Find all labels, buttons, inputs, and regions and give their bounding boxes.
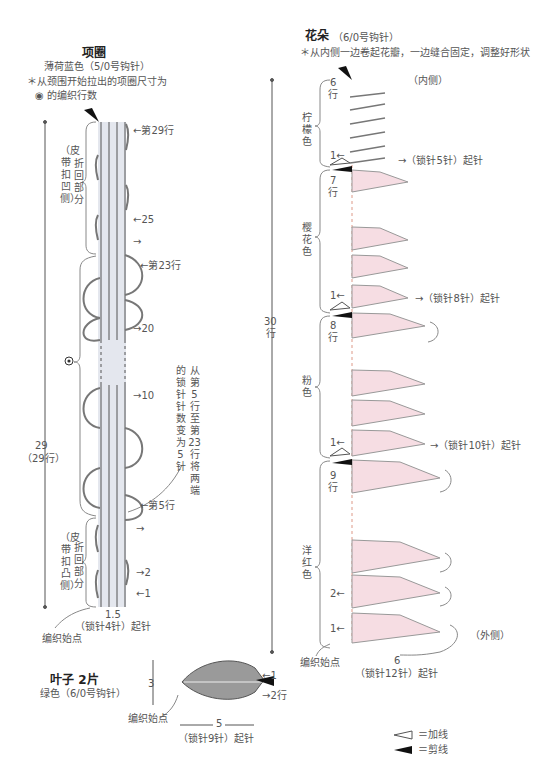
magenta-first-row: 1← <box>330 623 345 635</box>
lemon-first-row: 1← <box>330 150 345 162</box>
flower-inner-label: （内侧） <box>408 75 448 87</box>
leaf-width-value: 5 <box>213 718 225 730</box>
collar-row-29: ←第29行 <box>133 125 174 137</box>
collar-height-rows: （29行） <box>22 453 65 465</box>
collar-fold-top-paren: （皮带扣凹侧） <box>60 145 71 205</box>
collar-fold-bottom-paren: （皮带扣凸侧） <box>60 532 71 592</box>
collar-row-10: →10 <box>133 390 154 402</box>
collar-row-25: ←25 <box>133 214 154 226</box>
legend-icons <box>394 731 412 754</box>
magenta-foundation: （锁针12针）起针 <box>355 668 438 680</box>
flower-outer-label: （外侧） <box>470 630 510 642</box>
lemon-rows: 6 <box>330 77 336 89</box>
lemon-foundation: →（锁针5针）起针 <box>398 155 483 167</box>
magenta-row-2: 2← <box>330 588 345 600</box>
collar-height-value: 29 <box>35 440 48 452</box>
flower-total-rows-unit: 行 <box>266 328 276 340</box>
flower-note: ＊从内侧一边卷起花瓣，一边缝合固定，调整好形状 <box>300 47 530 59</box>
leaf-row-1: ←1 <box>262 670 277 682</box>
collar-row-20: →20 <box>133 323 154 335</box>
legend-cut-yarn: ＝剪线 <box>418 744 448 756</box>
pink-foundation: →（锁针10针）起针 <box>430 440 521 452</box>
collar-color-hook: 薄荷蓝色（5/0号钩针） <box>44 61 150 73</box>
collar-side-note-col1: 的锁针针数变为5针 <box>175 365 186 473</box>
flower-hook: （6/0号钩针） <box>333 32 399 44</box>
sakura-first-row: 1← <box>330 290 345 302</box>
leaf-color-hook: 绿色（6/0号钩针） <box>40 688 126 700</box>
magenta-rows-unit: 行 <box>328 482 338 494</box>
pink-first-row: 1← <box>330 437 345 449</box>
flower-total-rows-value: 30 <box>264 316 277 328</box>
collar-foundation: （锁针4针）起针 <box>75 621 151 633</box>
collar-row-2: →2 <box>136 567 151 579</box>
leaf-chart <box>153 660 274 725</box>
flower-start-point: 编织始点 <box>300 657 340 669</box>
magenta-color-label: 洋红色 <box>301 545 312 581</box>
diagram-graphics <box>0 0 546 776</box>
collar-title: 项圈 <box>82 47 106 61</box>
leaf-title: 叶子 2片 <box>50 674 99 688</box>
leaf-row-2: →2行 <box>262 690 287 702</box>
collar-row-24: → <box>133 236 141 248</box>
leaf-start-point: 编织始点 <box>128 713 168 725</box>
pink-rows-unit: 行 <box>328 332 338 344</box>
collar-row-4: → <box>136 523 144 535</box>
collar-note-line2: ◉ 的编织行数 <box>35 90 97 102</box>
leaf-height-value: 3 <box>148 678 154 690</box>
collar-note-line1: ＊从颈围开始拉出的项圈尺寸为 <box>27 76 167 88</box>
collar-start-point: 编织始点 <box>42 633 82 645</box>
sakura-foundation: →（锁针8针）起针 <box>415 293 500 305</box>
collar-fold-bottom-label: 折回部分 <box>73 542 84 590</box>
collar-row-1: ←1 <box>136 588 151 600</box>
magenta-rows: 9 <box>330 470 336 482</box>
legend-add-yarn: ＝加线 <box>418 729 448 741</box>
sakura-rows: 7 <box>330 175 336 187</box>
collar-side-note-col2: 从第5行至第23行将两端 <box>188 365 201 497</box>
flower-title: 花朵 <box>305 30 329 44</box>
leaf-foundation: （锁针9针）起针 <box>178 733 254 745</box>
lemon-rows-unit: 行 <box>328 89 338 101</box>
magenta-width-value: 6 <box>394 655 400 667</box>
lemon-color-label: 柠檬色 <box>301 112 312 148</box>
sakura-color-label: 樱花色 <box>301 222 312 258</box>
pink-rows: 8 <box>330 320 336 332</box>
pink-color-label: 粉色 <box>301 375 312 399</box>
sakura-rows-unit: 行 <box>328 187 338 199</box>
collar-row-5: ←第5行 <box>140 500 175 512</box>
collar-row-23: ←第23行 <box>140 260 181 272</box>
collar-fold-top-label: 折回部分 <box>73 158 84 206</box>
collar-width-value: 1.5 <box>105 609 121 621</box>
